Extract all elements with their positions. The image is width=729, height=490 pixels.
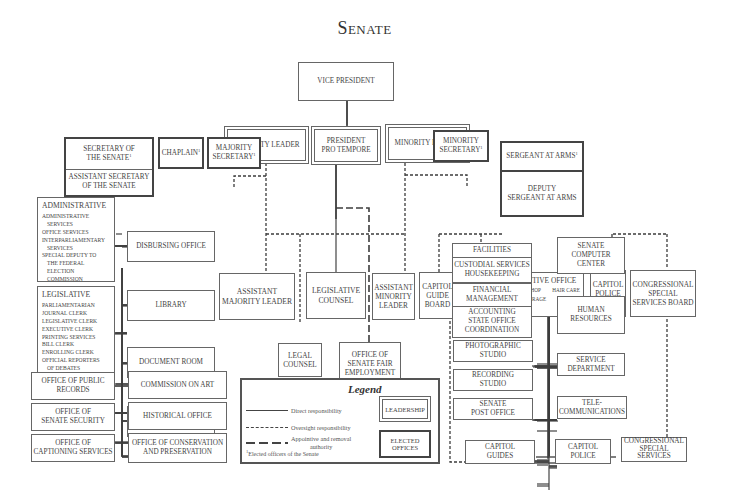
legend-leadership-sample: Leadership	[379, 396, 431, 422]
vice-president-box: Vice President	[298, 62, 394, 101]
assistant-secretary: Assistant Secretary of the Senate	[66, 169, 152, 195]
ocp-line-1: Office of Conservation	[132, 439, 223, 448]
lc-line-1: Legislative	[312, 286, 360, 295]
po-line-1: Senate	[480, 400, 507, 409]
cg-line-2: Guides	[487, 452, 513, 461]
human-resources-box: Human Resources	[557, 296, 625, 334]
cpb-line-1: Capitol	[593, 280, 624, 289]
financial-management-box: Financial Management Accounting State Of…	[452, 283, 532, 338]
list-item: Parliamentarian	[42, 302, 110, 310]
list-item: Enrolling Clerk	[42, 349, 110, 357]
acc-line-3: Coordination	[465, 326, 519, 335]
library-label: Library	[155, 301, 186, 310]
minority-secretary-line-2: Secretary1	[439, 146, 482, 155]
secretary-line-2: the Senate1	[87, 154, 132, 163]
secretary-of-senate-box: Secretary of the Senate1 Assistant Secre…	[64, 137, 154, 197]
congressional-special-services-box: Congressional Special Services	[621, 437, 687, 462]
legislative-list: Legislative ParliamentarianJournal Clerk…	[37, 286, 115, 381]
hr-line-1: Human	[577, 306, 604, 315]
list-item: Legislative Clerk	[42, 318, 110, 326]
administrative-list: Administrative AdministrativeServicesOff…	[37, 197, 115, 282]
legend-direct-label: Direct responsibility	[291, 407, 342, 414]
majority-secretary-line-2: Secretary1	[212, 153, 255, 162]
amin-line-1: Assistant	[374, 283, 413, 292]
rec-line-2: Studio	[480, 380, 506, 389]
majority-secretary-line-1: Majority	[216, 144, 252, 153]
ppt-line-2: Pro Tempore	[321, 146, 370, 155]
commission-on-art-label: Commission on Art	[141, 381, 214, 390]
custodial-services: Custodial Services Housekeeping	[453, 257, 531, 282]
telecommunications-box: Tele- communications	[557, 396, 627, 419]
historical-office-box: Historical Office	[128, 402, 227, 430]
legislative-items: ParliamentarianJournal ClerkLegislative …	[42, 302, 110, 381]
secretary-line-1: Secretary of	[83, 145, 135, 154]
capitol-guides-box: Capitol Guides	[465, 440, 535, 464]
oss-line-2: Senate Security	[41, 417, 105, 426]
custodial-line-2: Housekeeping	[465, 270, 520, 279]
hair-care: Hair Care	[552, 287, 580, 294]
list-item: Executive Clerk	[42, 326, 110, 334]
legend-appointive: Appointive and removal authority	[246, 435, 351, 451]
css-line-3: Services	[637, 453, 670, 461]
cgb-line-2: Guide	[426, 291, 449, 300]
ocp-line-2: and Preservation	[143, 448, 212, 457]
list-item: Services	[42, 245, 110, 253]
list-item: Special Deputy to	[42, 252, 110, 260]
document-room-label: Document Room	[139, 358, 203, 367]
legend-footnote: 1Elected officers of the Senate	[246, 451, 319, 457]
financial-management: Financial Management	[453, 284, 531, 306]
administrative-items: AdministrativeServicesOffice ServicesInt…	[42, 213, 110, 284]
accounting: Accounting State Office Coordination	[453, 306, 531, 337]
conservation-preservation-box: Office of Conservation and Preservation	[128, 433, 227, 463]
deputy-line-1: Deputy	[528, 185, 556, 194]
historical-office-label: Historical Office	[143, 412, 212, 421]
fm-line-2: Management	[466, 295, 518, 304]
ocs-line-1: Office of	[55, 439, 91, 448]
dotted-line-icon	[246, 427, 288, 428]
po-line-2: Post Office	[471, 409, 515, 418]
sfe-line-2: Senate Fair	[347, 359, 392, 368]
congressional-special-services-board-box: Congressional Special Services Board	[630, 270, 696, 317]
legal-line-2: Counsel	[283, 360, 317, 369]
assistant-secretary-line-1: Assistant Secretary	[69, 173, 150, 182]
elected-line-1: Elected	[391, 437, 420, 444]
acc-line-2: State Office	[468, 317, 516, 326]
fm-line-1: Financial	[473, 286, 512, 295]
chaplain-label: Chaplain1	[162, 149, 201, 158]
dash-line-icon	[246, 441, 288, 445]
capitol-guide-board-box: Capitol Guide Board	[419, 272, 456, 319]
amin-line-3: Leader	[379, 301, 408, 310]
photo-line-2: Studio	[480, 351, 506, 360]
aml-line-2: Majority Leader	[222, 297, 292, 306]
ocs-line-2: Captioning Services	[33, 448, 112, 457]
solid-line-icon	[246, 410, 288, 411]
deputy-sergeant-at-arms: Deputy Sergeant at Arms	[502, 170, 582, 215]
legend-appointive-label: Appointive and removal authority	[291, 435, 351, 451]
legal-counsel-box: Legal Counsel	[278, 343, 322, 377]
capitol-police-box: Capitol Police	[555, 439, 611, 464]
leadership-label: Leadership	[382, 399, 428, 419]
office-public-records-box: Office of Public Records	[31, 372, 115, 400]
sfe-line-1: Office of	[352, 350, 388, 359]
president-pro-tempore-box: President Pro Tempore	[311, 126, 381, 165]
list-item: Interparliamentary	[42, 237, 110, 245]
administrative-heading: Administrative	[42, 201, 110, 212]
assistant-minority-leader-box: Assistant Minority Leader	[372, 273, 415, 320]
opr-line-2: Records	[56, 386, 89, 395]
tele-line-2: communications	[559, 408, 625, 417]
list-item: Administrative	[42, 213, 110, 221]
sergeant-at-arms-box: Sergeant at Arms1 Deputy Sergeant at Arm…	[500, 141, 584, 217]
custodial-line-1: Custodial Services	[454, 261, 530, 270]
minority-secretary-box: Minority Secretary1	[433, 130, 489, 162]
majority-secretary-box: Majority Secretary1	[207, 137, 261, 169]
elected-line-2: Offices	[392, 444, 418, 451]
legend-title: Legend	[348, 383, 382, 395]
list-item: Bill Clerk	[42, 341, 110, 349]
cp-line-2: Police	[570, 452, 595, 461]
legend-oversight-label: Oversight responsibility	[291, 424, 351, 431]
list-item: Journal Clerk	[42, 310, 110, 318]
legal-line-1: Legal	[288, 351, 312, 360]
sd-line-2: Department	[567, 365, 614, 374]
list-item: Services	[42, 221, 110, 229]
facilities-box: Facilities Custodial Services Housekeepi…	[452, 243, 532, 283]
